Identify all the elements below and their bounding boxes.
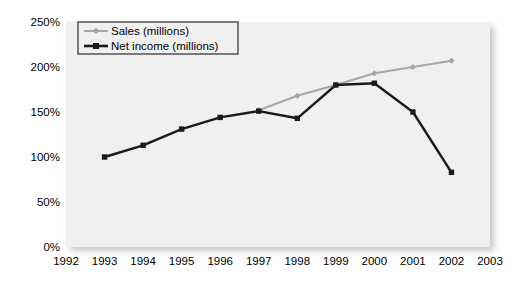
y-axis-tick: 50% bbox=[37, 196, 60, 208]
y-axis-tick: 150% bbox=[31, 106, 60, 118]
x-axis-tick-labels: 1992199319941995199619971998199920002001… bbox=[53, 255, 503, 267]
y-axis-tick-labels: 0%50%100%150%200%250% bbox=[31, 16, 60, 253]
x-axis-tick: 2001 bbox=[400, 255, 426, 267]
x-axis-tick: 1999 bbox=[323, 255, 349, 267]
x-axis-tick: 1993 bbox=[92, 255, 118, 267]
legend-marker-icon bbox=[93, 43, 99, 49]
legend-label: Sales (millions) bbox=[111, 25, 189, 37]
x-axis-tick: 2003 bbox=[477, 255, 503, 267]
data-point-marker bbox=[372, 81, 377, 86]
y-axis-tick: 250% bbox=[31, 16, 60, 28]
y-axis-tick: 0% bbox=[43, 241, 60, 253]
data-point-marker bbox=[333, 82, 338, 87]
x-axis-tick: 1992 bbox=[53, 255, 79, 267]
data-point-marker bbox=[295, 116, 300, 121]
chart-container: 0%50%100%150%200%250% 199219931994199519… bbox=[0, 0, 528, 281]
x-axis-tick: 1998 bbox=[284, 255, 310, 267]
line-chart: 0%50%100%150%200%250% 199219931994199519… bbox=[0, 0, 528, 281]
chart-legend: Sales (millions)Net income (millions) bbox=[78, 22, 238, 54]
data-point-marker bbox=[217, 115, 222, 120]
x-axis-tick: 1995 bbox=[169, 255, 195, 267]
data-point-marker bbox=[140, 143, 145, 148]
data-point-marker bbox=[410, 109, 415, 114]
y-axis-tick: 200% bbox=[31, 61, 60, 73]
legend-label: Net income (millions) bbox=[111, 40, 219, 52]
x-axis-tick: 1996 bbox=[207, 255, 233, 267]
data-point-marker bbox=[102, 154, 107, 159]
data-point-marker bbox=[256, 108, 261, 113]
x-axis-tick: 1997 bbox=[246, 255, 272, 267]
y-axis-tick: 100% bbox=[31, 151, 60, 163]
x-axis-tick: 1994 bbox=[130, 255, 156, 267]
data-point-marker bbox=[449, 170, 454, 175]
x-axis-tick: 2000 bbox=[362, 255, 388, 267]
data-point-marker bbox=[179, 126, 184, 131]
x-axis-tick: 2002 bbox=[439, 255, 465, 267]
